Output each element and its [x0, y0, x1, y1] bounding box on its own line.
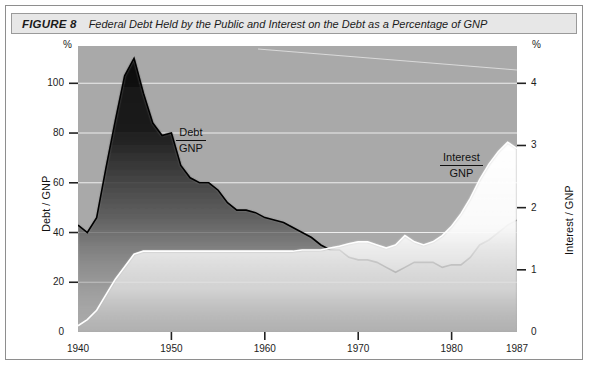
axis-ticks-x	[171, 332, 451, 340]
axis-ticks-right	[517, 83, 526, 270]
chart-canvas	[0, 0, 590, 367]
axis-ticks-left	[69, 83, 78, 282]
figure-container: FIGURE 8 Federal Debt Held by the Public…	[0, 0, 590, 367]
